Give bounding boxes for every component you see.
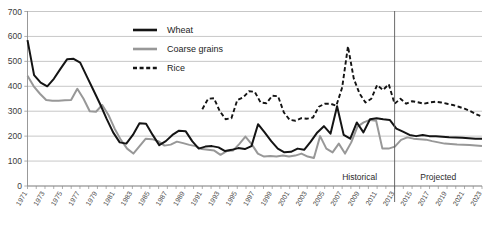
period-label-historical: Historical [342,172,377,182]
y-tick-label-200: 200 [8,131,22,141]
y-tick-label-500: 500 [8,56,22,66]
y-tick-label-0: 0 [17,181,22,191]
y-tick-label-100: 100 [8,156,22,166]
y-tick-label-300: 300 [8,106,22,116]
legend-label-rice: Rice [167,63,185,73]
y-tick-label-400: 400 [8,81,22,91]
legend-label-wheat: Wheat [167,25,194,35]
period-label-projected: Projected [420,172,456,182]
y-tick-label-600: 600 [8,31,22,41]
price-trend-line-chart: 0100200300400500600700 19711973197519771… [0,0,486,245]
y-tick-label-700: 700 [8,7,22,17]
chart-canvas: 0100200300400500600700 19711973197519771… [0,0,486,245]
legend-label-coarse-grains: Coarse grains [167,44,224,54]
